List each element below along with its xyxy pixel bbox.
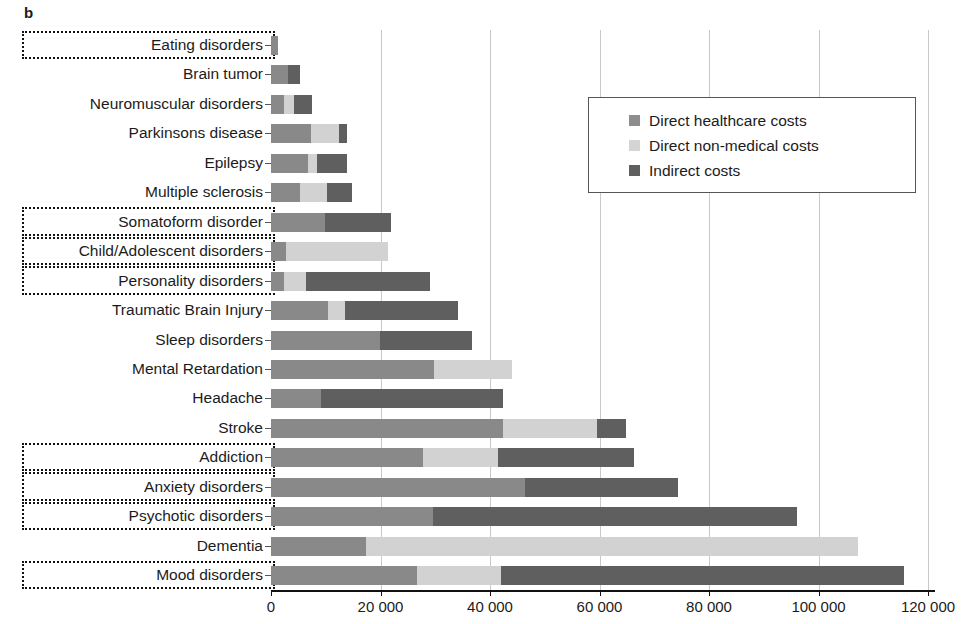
stacked-bar[interactable] <box>271 331 472 350</box>
stacked-bar[interactable] <box>271 566 904 585</box>
bar-segment-indirect[interactable] <box>345 301 458 320</box>
bar-segment-nonmedical[interactable] <box>366 537 858 556</box>
legend-swatch-indirect-icon <box>629 165 640 176</box>
bar-segment-indirect[interactable] <box>525 478 678 497</box>
stacked-bar[interactable] <box>271 537 858 556</box>
stacked-bar[interactable] <box>271 448 634 467</box>
bar-segment-nonmedical[interactable] <box>311 124 339 143</box>
bar-segment-indirect[interactable] <box>380 331 472 350</box>
bar-segment-direct[interactable] <box>271 183 300 202</box>
bar-segment-direct[interactable] <box>271 36 278 55</box>
bar-segment-indirect[interactable] <box>339 124 347 143</box>
x-axis-tick-label: 60 000 <box>577 598 623 615</box>
bar-row <box>271 295 928 325</box>
category-label: Addiction <box>16 448 271 466</box>
bar-segment-nonmedical[interactable] <box>434 360 512 379</box>
category-label: Personality disorders <box>16 272 271 290</box>
category-label: Child/Adolescent disorders <box>16 242 271 260</box>
bar-segment-nonmedical[interactable] <box>328 301 345 320</box>
legend-item: Direct non-medical costs <box>629 133 915 158</box>
bar-row <box>271 236 928 266</box>
stacked-bar[interactable] <box>271 124 347 143</box>
bar-segment-indirect[interactable] <box>317 154 347 173</box>
category-label: Brain tumor <box>16 65 271 83</box>
bar-segment-direct[interactable] <box>271 213 325 232</box>
stacked-bar[interactable] <box>271 360 512 379</box>
category-axis-labels: Eating disordersBrain tumorNeuromuscular… <box>12 30 271 590</box>
bar-segment-nonmedical[interactable] <box>286 242 388 261</box>
category-label: Eating disorders <box>16 36 271 54</box>
bar-segment-direct[interactable] <box>271 419 503 438</box>
bar-segment-indirect[interactable] <box>288 65 300 84</box>
stacked-bar[interactable] <box>271 272 430 291</box>
bar-row <box>271 383 928 413</box>
bar-segment-direct[interactable] <box>271 95 284 114</box>
bar-segment-indirect[interactable] <box>327 183 352 202</box>
x-axis-tick <box>381 590 382 596</box>
bar-row <box>271 325 928 355</box>
bar-segment-direct[interactable] <box>271 331 380 350</box>
bar-segment-nonmedical[interactable] <box>423 448 499 467</box>
bar-segment-direct[interactable] <box>271 65 288 84</box>
category-label: Multiple sclerosis <box>16 183 271 201</box>
x-axis-tick <box>709 590 710 596</box>
x-axis-tick <box>928 590 929 596</box>
bar-segment-direct[interactable] <box>271 360 434 379</box>
bar-segment-direct[interactable] <box>271 272 284 291</box>
bar-segment-nonmedical[interactable] <box>503 419 597 438</box>
bar-segment-direct[interactable] <box>271 389 321 408</box>
bar-segment-direct[interactable] <box>271 301 328 320</box>
stacked-bar[interactable] <box>271 478 678 497</box>
bar-segment-direct[interactable] <box>271 478 525 497</box>
category-label: Sleep disorders <box>16 331 271 349</box>
bar-segment-indirect[interactable] <box>597 419 626 438</box>
x-axis-tick <box>819 590 820 596</box>
legend-swatch-direct-healthcare-icon <box>629 115 640 126</box>
bar-row <box>271 442 928 472</box>
stacked-bar[interactable] <box>271 242 388 261</box>
bar-segment-indirect[interactable] <box>294 95 312 114</box>
category-label: Somatoform disorder <box>16 213 271 231</box>
bar-segment-indirect[interactable] <box>321 389 503 408</box>
bar-segment-nonmedical[interactable] <box>284 272 306 291</box>
bar-row <box>271 531 928 561</box>
bar-segment-indirect[interactable] <box>501 566 904 585</box>
legend-swatch-direct-non-medical-icon <box>629 140 640 151</box>
bar-segment-nonmedical[interactable] <box>300 183 327 202</box>
x-axis-tick-label: 80 000 <box>686 598 732 615</box>
x-axis-tick <box>490 590 491 596</box>
category-label: Mental Retardation <box>16 360 271 378</box>
bar-segment-direct[interactable] <box>271 566 417 585</box>
bar-segment-direct[interactable] <box>271 154 308 173</box>
bar-segment-direct[interactable] <box>271 124 311 143</box>
legend-item: Indirect costs <box>629 158 915 183</box>
stacked-bar[interactable] <box>271 507 797 526</box>
bar-segment-nonmedical[interactable] <box>417 566 501 585</box>
bar-segment-direct[interactable] <box>271 537 366 556</box>
panel-letter: b <box>24 4 33 21</box>
bar-row <box>271 30 928 60</box>
stacked-bar[interactable] <box>271 419 626 438</box>
category-label: Psychotic disorders <box>16 507 271 525</box>
bar-segment-direct[interactable] <box>271 507 433 526</box>
stacked-bar[interactable] <box>271 389 503 408</box>
bar-segment-indirect[interactable] <box>325 213 391 232</box>
stacked-bar[interactable] <box>271 213 391 232</box>
bar-segment-indirect[interactable] <box>433 507 797 526</box>
x-axis-tick <box>271 590 272 596</box>
stacked-bar[interactable] <box>271 65 300 84</box>
bar-row <box>271 472 928 502</box>
stacked-bar[interactable] <box>271 301 458 320</box>
bar-segment-nonmedical[interactable] <box>284 95 294 114</box>
stacked-bar[interactable] <box>271 154 347 173</box>
bar-segment-nonmedical[interactable] <box>308 154 317 173</box>
stacked-bar[interactable] <box>271 36 278 55</box>
bar-segment-indirect[interactable] <box>306 272 430 291</box>
bar-segment-direct[interactable] <box>271 242 286 261</box>
stacked-bar[interactable] <box>271 95 312 114</box>
x-axis-tick-label: 100 000 <box>791 598 845 615</box>
bar-segment-direct[interactable] <box>271 448 423 467</box>
x-axis-tick <box>600 590 601 596</box>
bar-segment-indirect[interactable] <box>498 448 634 467</box>
stacked-bar[interactable] <box>271 183 352 202</box>
